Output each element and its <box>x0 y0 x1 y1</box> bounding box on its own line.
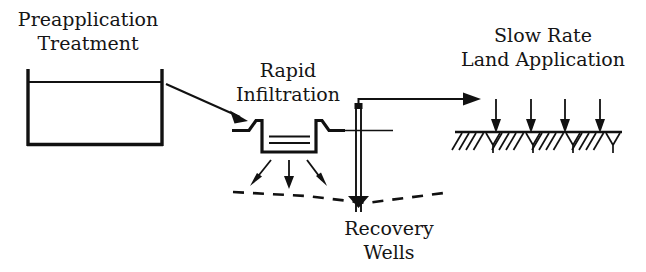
rapid-infiltration-label-line2: Infiltration <box>236 83 340 105</box>
stage-label-slow-rate-land-application: Slow Rate Land Application <box>461 24 625 70</box>
stage-label-preapplication-treatment: Preapplication Treatment <box>18 8 158 54</box>
recovery-wells-label-line2: Wells <box>363 241 414 263</box>
percolation-arrow-head-1 <box>250 173 262 186</box>
land-application-field <box>452 99 622 153</box>
preapplication-treatment-tank <box>27 69 163 146</box>
stage-label-recovery-wells: Recovery Wells <box>344 217 434 263</box>
well-discharge-arrow-head <box>463 93 481 106</box>
recovery-well <box>348 93 481 213</box>
process-flow-diagram: Preapplication Treatment Rapid Infiltrat… <box>0 0 646 272</box>
land-application-arrows <box>491 99 605 133</box>
preapplication-treatment-label-line1: Preapplication <box>18 8 158 30</box>
rapid-infiltration-label-line1: Rapid <box>260 59 316 81</box>
well-discharge-pipe <box>359 99 471 105</box>
well-intake-arrow-head <box>348 196 369 208</box>
recovery-wells-label-line1: Recovery <box>344 217 434 239</box>
diagram-canvas: Preapplication Treatment Rapid Infiltrat… <box>0 0 646 272</box>
stage-label-rapid-infiltration: Rapid Infiltration <box>236 59 340 105</box>
flow-arrow-head <box>230 111 248 124</box>
rapid-infiltration-basin <box>232 121 393 153</box>
percolation-arrow-head-2 <box>284 176 294 189</box>
basin-percolation-arrows <box>250 160 327 189</box>
slow-rate-land-application-label-line2: Land Application <box>461 48 625 70</box>
preapplication-treatment-label-line2: Treatment <box>37 32 138 54</box>
flow-arrow-shaft <box>166 84 240 117</box>
slow-rate-land-application-label-line1: Slow Rate <box>494 24 592 46</box>
groundwater-table-dashed-line <box>233 192 444 203</box>
